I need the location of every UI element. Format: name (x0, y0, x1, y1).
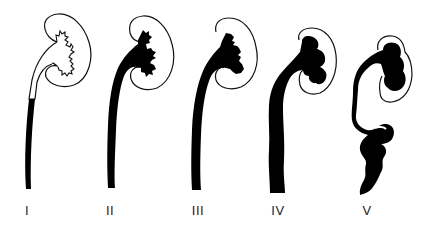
diagram-canvas (0, 0, 432, 232)
grade-ii-figure (107, 16, 173, 188)
grade-iii-figure (191, 18, 257, 190)
grade-v-collecting-system (352, 42, 406, 195)
grade-iv-figure (269, 28, 337, 193)
grade-label-v: V (362, 203, 371, 219)
grade-i-figure (25, 14, 91, 189)
grade-v-figure (352, 36, 412, 195)
grade-ii-calyces (107, 30, 156, 188)
grade-label-i: I (25, 203, 29, 219)
grade-i-calyces (56, 31, 74, 76)
grade-label-ii: II (106, 203, 114, 219)
grade-label-iii: III (192, 203, 204, 219)
grade-label-iv: IV (271, 203, 284, 219)
grade-iii-calyces (191, 33, 244, 190)
grade-i-ureter-upper (29, 42, 57, 99)
grade-iv-collecting-system (269, 36, 327, 193)
reflux-grades-diagram: I II III IV V (0, 0, 432, 232)
grade-i-ureter-lower (25, 99, 35, 189)
